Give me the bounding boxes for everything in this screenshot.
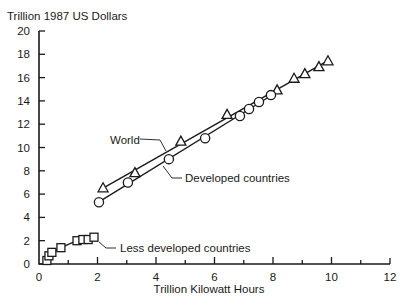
square-marker bbox=[57, 244, 65, 252]
y-axis-title: Trillion 1987 US Dollars bbox=[7, 10, 128, 22]
x-tick-label: 12 bbox=[384, 271, 397, 283]
circle-marker bbox=[235, 111, 244, 120]
triangle-marker bbox=[176, 136, 186, 145]
circle-marker bbox=[94, 198, 103, 207]
x-tick-label: 2 bbox=[94, 271, 100, 283]
axis-lines bbox=[39, 31, 390, 264]
circle-marker bbox=[266, 90, 275, 99]
label-less-developed: Less developed countries bbox=[99, 242, 251, 254]
square-marker bbox=[90, 233, 98, 241]
triangle-marker bbox=[300, 69, 310, 78]
x-axis-title: Trillion Kilowatt Hours bbox=[154, 283, 265, 295]
x-tick-label: 10 bbox=[325, 271, 338, 283]
triangle-marker bbox=[98, 183, 108, 192]
y-tick-label: 14 bbox=[17, 95, 30, 107]
leader-line-developed bbox=[163, 166, 182, 178]
y-tick-label: 6 bbox=[24, 188, 30, 200]
x-tick-label: 8 bbox=[270, 271, 276, 283]
circle-marker bbox=[123, 178, 132, 187]
series-label-less-developed: Less developed countries bbox=[120, 242, 251, 254]
data-markers bbox=[43, 56, 333, 265]
leader-line-less-developed bbox=[99, 242, 116, 248]
scatter-plot: Trillion 1987 US Dollars Trillion Kilowa… bbox=[0, 0, 415, 305]
chart: Trillion 1987 US Dollars Trillion Kilowa… bbox=[0, 0, 415, 305]
x-tick-label: 0 bbox=[36, 271, 42, 283]
triangle-marker bbox=[222, 109, 232, 118]
series-label-developed: Developed countries bbox=[185, 172, 290, 184]
x-tick-label: 6 bbox=[211, 271, 217, 283]
circle-marker bbox=[254, 97, 263, 106]
y-tick-label: 16 bbox=[17, 72, 30, 84]
label-developed: Developed countries bbox=[163, 166, 290, 184]
fit-lines bbox=[47, 61, 328, 261]
y-tick-label: 18 bbox=[17, 48, 30, 60]
y-tick-label: 0 bbox=[24, 258, 30, 270]
label-world: World bbox=[110, 134, 166, 151]
circle-marker bbox=[164, 155, 173, 164]
y-tick-label: 2 bbox=[24, 235, 30, 247]
triangle-marker bbox=[323, 56, 333, 65]
y-tick-label: 8 bbox=[24, 165, 30, 177]
series-label-world: World bbox=[110, 134, 140, 146]
triangle-marker bbox=[314, 62, 324, 71]
circle-marker bbox=[201, 134, 210, 143]
y-tick-label: 20 bbox=[17, 25, 30, 37]
leader-line-world bbox=[140, 139, 166, 151]
circle-marker bbox=[244, 104, 253, 113]
square-marker bbox=[48, 248, 56, 256]
y-tick-label: 12 bbox=[17, 118, 30, 130]
x-tick-label: 4 bbox=[153, 271, 160, 283]
y-tick-label: 10 bbox=[17, 142, 30, 154]
y-tick-label: 4 bbox=[24, 211, 31, 223]
